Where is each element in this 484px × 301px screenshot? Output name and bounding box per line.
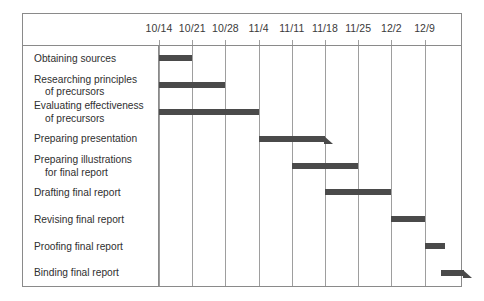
task-label: Evaluating effectivenessof precursors [34, 100, 154, 127]
task-label-line1: Researching principles [34, 74, 154, 87]
chart-body: Obtaining sourcesResearching principleso… [23, 46, 461, 286]
task-label-line1: Revising final report [34, 214, 154, 227]
task-bar[interactable] [159, 82, 225, 88]
timeline-header: 10/1410/2110/2811/411/1111/1811/2512/212… [23, 14, 461, 46]
task-bar[interactable] [159, 55, 192, 61]
task-label: Binding final report [34, 260, 154, 287]
task-bar[interactable] [391, 216, 424, 222]
axis-tick [192, 40, 193, 45]
task-label: Drafting final report [34, 180, 154, 207]
task-bar[interactable] [159, 109, 259, 115]
task-label: Preparing presentation [34, 126, 154, 153]
chart-frame: 10/1410/2110/2811/411/1111/1811/2512/212… [22, 13, 462, 287]
task-label-line2: of precursors [34, 86, 154, 99]
gantt-row[interactable]: Researching principlesof precursors [23, 73, 461, 100]
axis-tick [225, 40, 226, 45]
task-label: Revising final report [34, 207, 154, 234]
milestone-marker-icon [324, 136, 333, 144]
task-label-line1: Preparing presentation [34, 133, 154, 146]
gantt-row[interactable]: Obtaining sources [23, 46, 461, 73]
date-tick-label: 12/9 [403, 22, 447, 34]
task-bar[interactable] [441, 270, 464, 276]
task-bar[interactable] [425, 243, 445, 249]
gantt-row[interactable]: Preparing presentation [23, 126, 461, 153]
axis-tick [358, 40, 359, 45]
gantt-row[interactable]: Evaluating effectivenessof precursors [23, 100, 461, 127]
task-label-line1: Obtaining sources [34, 53, 154, 66]
task-label: Preparing illustrationsfor final report [34, 153, 154, 180]
axis-tick [159, 40, 160, 45]
milestone-marker-icon [463, 270, 472, 278]
axis-tick [259, 40, 260, 45]
task-label-line1: Proofing final report [34, 241, 154, 254]
axis-tick [391, 40, 392, 45]
task-bar[interactable] [292, 163, 358, 169]
axis-tick [325, 40, 326, 45]
task-label: Obtaining sources [34, 46, 154, 73]
task-label-line1: Binding final report [34, 267, 154, 280]
axis-tick [425, 40, 426, 45]
task-label-line1: Preparing illustrations [34, 154, 154, 167]
gantt-row[interactable]: Proofing final report [23, 234, 461, 261]
gantt-row[interactable]: Preparing illustrationsfor final report [23, 153, 461, 180]
task-label-line1: Drafting final report [34, 187, 154, 200]
task-label: Proofing final report [34, 234, 154, 261]
task-label-line2: for final report [34, 167, 154, 180]
task-label-line1: Evaluating effectiveness [34, 100, 154, 113]
task-bar[interactable] [325, 189, 391, 195]
task-label-line2: of precursors [34, 113, 154, 126]
task-label: Researching principlesof precursors [34, 73, 154, 100]
gantt-chart: 10/1410/2110/2811/411/1111/1811/2512/212… [0, 0, 484, 301]
gantt-row[interactable]: Revising final report [23, 207, 461, 234]
task-bar[interactable] [259, 136, 325, 142]
gantt-row[interactable]: Drafting final report [23, 180, 461, 207]
axis-tick [292, 40, 293, 45]
gantt-row[interactable]: Binding final report [23, 260, 461, 287]
